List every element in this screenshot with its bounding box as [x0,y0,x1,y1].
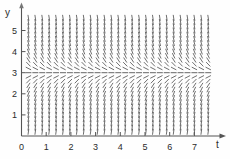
slope-mark [158,67,163,69]
slope-mark [158,79,162,83]
x-axis-ticks [22,132,195,136]
slope-mark [123,79,127,83]
slope-mark [193,79,197,83]
slope-field-marks [26,15,211,134]
slope-mark [81,67,86,69]
slope-mark [179,62,183,66]
slope-mark [75,62,79,66]
slope-mark [68,67,73,69]
slope-mark [137,79,141,83]
y-tick-label-1: 2 [0,89,17,99]
slope-mark [151,76,156,78]
x-tick-label-1: 1 [44,142,49,152]
slope-mark [96,79,100,83]
slope-mark [172,79,176,83]
slope-mark [186,79,190,83]
slope-mark [103,79,107,83]
slope-mark [199,76,204,78]
slope-mark [54,67,59,69]
slope-mark [47,67,52,69]
x-axis-label: t [216,139,219,150]
slope-mark [27,62,31,66]
slope-mark [54,79,58,83]
x-tick-label-2: 2 [68,142,73,152]
slope-mark [109,76,114,78]
slope-mark [61,76,66,78]
slope-mark [192,76,197,78]
slope-mark [164,76,169,78]
slope-mark [102,67,107,69]
slope-mark [199,67,204,69]
plot-canvas [0,0,230,159]
slope-mark [95,67,100,69]
slope-mark [130,62,134,66]
slope-mark [33,76,38,78]
slope-mark [75,67,80,69]
slope-mark [61,79,65,83]
slope-mark [81,76,86,78]
x-tick-label-7: 7 [192,142,197,152]
x-tick-label-5: 5 [142,142,147,152]
x-axis-arrowhead [220,133,227,138]
x-tick-label-0: 0 [19,142,24,152]
slope-mark [40,67,45,69]
slope-mark [88,76,93,78]
slope-mark [171,76,176,78]
slope-mark [82,62,86,66]
slope-mark [200,79,204,83]
slope-mark [116,67,121,69]
slope-mark [96,62,100,66]
slope-mark [117,62,121,66]
slope-mark [130,79,134,83]
slope-mark [75,76,80,78]
slope-mark [158,76,163,78]
slope-mark [40,62,44,66]
slope-mark [123,67,128,69]
slope-mark [68,76,73,78]
slope-mark [144,79,148,83]
slope-mark [109,67,114,69]
slope-mark [165,79,169,83]
slope-mark [26,67,31,69]
slope-mark [130,67,135,69]
slope-mark [110,79,114,83]
slope-mark [89,79,93,83]
slope-mark [54,62,58,66]
slope-mark [186,62,190,66]
slope-mark [61,62,65,66]
slope-mark [151,62,155,66]
slope-mark [137,76,142,78]
slope-mark [123,62,127,66]
slope-mark [40,76,45,78]
y-axis-arrowhead [19,3,24,9]
slope-mark [102,76,107,78]
slope-mark [178,67,183,69]
slope-mark [68,79,72,83]
slope-mark [193,62,197,66]
axes [19,3,226,139]
slope-mark [137,62,141,66]
slope-mark [26,76,31,78]
slope-mark [192,67,197,69]
y-tick-label-3: 4 [0,47,17,57]
slope-mark [151,67,156,69]
slope-mark [47,62,51,66]
slope-mark [144,62,148,66]
slope-mark [82,79,86,83]
slope-mark [40,79,44,83]
slope-mark [164,67,169,69]
y-tick-label-4: 5 [0,26,17,36]
slope-mark [151,79,155,83]
slope-mark [206,62,210,66]
slope-mark [95,76,100,78]
slope-mark [75,79,79,83]
slope-mark [33,67,38,69]
slope-mark [34,79,38,83]
slope-mark [178,76,183,78]
slope-mark [172,62,176,66]
slope-mark [103,62,107,66]
x-tick-label-4: 4 [118,142,123,152]
y-tick-label-0: 1 [0,110,17,120]
x-tick-label-3: 3 [93,142,98,152]
slope-field-figure: 01234567 12345 y t [0,0,230,159]
